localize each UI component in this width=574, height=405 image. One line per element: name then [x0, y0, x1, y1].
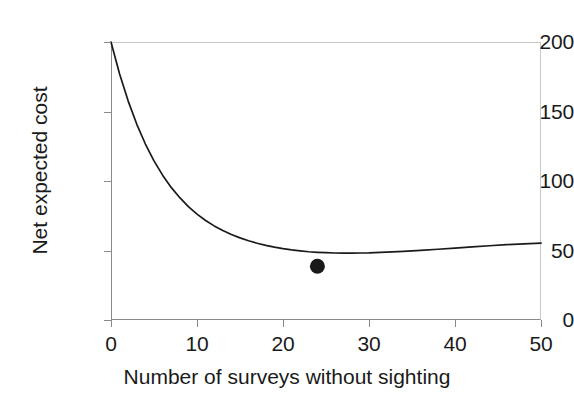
y-tick-mark-100 — [104, 181, 111, 182]
x-tick-label-30: 30 — [334, 333, 404, 354]
y-axis-title: Net expected cost — [29, 71, 50, 271]
x-tick-label-0: 0 — [76, 333, 146, 354]
x-tick-label-40: 40 — [420, 333, 490, 354]
x-tick-mark-30 — [369, 320, 370, 327]
x-tick-mark-50 — [541, 320, 542, 327]
x-tick-mark-10 — [197, 320, 198, 327]
optimum-point-marker — [310, 259, 325, 274]
chart-figure: 200 150 100 50 0 0 10 20 30 40 50 Net ex… — [0, 0, 574, 405]
x-tick-mark-0 — [111, 320, 112, 327]
x-tick-mark-40 — [455, 320, 456, 327]
x-tick-label-50: 50 — [506, 333, 574, 354]
chart-canvas — [111, 42, 541, 320]
y-tick-mark-150 — [104, 112, 111, 113]
y-tick-label-50: 50 — [478, 240, 574, 261]
y-tick-mark-50 — [104, 251, 111, 252]
y-tick-label-100: 100 — [478, 170, 574, 191]
x-tick-label-20: 20 — [248, 333, 318, 354]
y-tick-label-150: 150 — [478, 101, 574, 122]
y-tick-mark-0 — [104, 320, 111, 321]
x-axis-title: Number of surveys without sighting — [0, 366, 574, 388]
x-tick-mark-20 — [283, 320, 284, 327]
y-tick-label-0: 0 — [478, 309, 574, 330]
cost-curve — [111, 42, 541, 253]
y-tick-label-200: 200 — [478, 31, 574, 52]
x-tick-label-10: 10 — [162, 333, 232, 354]
y-tick-mark-200 — [104, 42, 111, 43]
